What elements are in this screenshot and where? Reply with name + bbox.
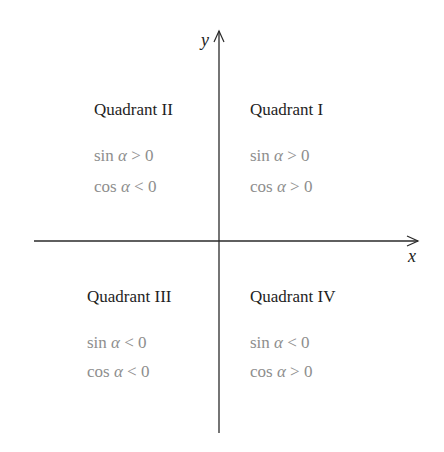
quadrant-iv-title: Quadrant IV [250,287,335,307]
quadrant-i-title: Quadrant I [250,100,323,120]
quadrant-iii-cos: cos α < 0 [87,362,149,382]
quadrant-i-sin: sin α > 0 [250,146,310,166]
quadrant-iii-sin: sin α < 0 [87,333,147,353]
quadrant-i-cos: cos α > 0 [250,177,312,197]
quadrant-iv-sin: sin α < 0 [250,333,310,353]
quadrant-iv-cos: cos α > 0 [250,362,312,382]
quadrant-iii-title: Quadrant III [87,287,172,307]
quadrant-ii-title: Quadrant II [94,100,173,120]
coordinate-axes [0,0,444,452]
quadrant-ii-sin: sin α > 0 [94,146,154,166]
x-axis-label: x [408,246,416,267]
quadrant-ii-cos: cos α < 0 [94,177,156,197]
y-axis-label: y [201,30,209,51]
